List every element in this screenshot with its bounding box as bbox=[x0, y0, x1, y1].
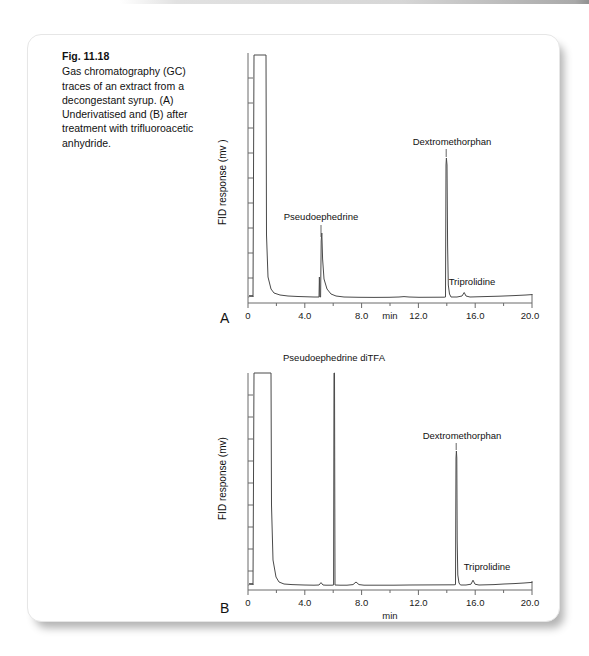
chart-a-axes bbox=[248, 53, 532, 308]
figure-page-card: Fig. 11.18Gas chromatography (GC) traces… bbox=[27, 34, 560, 622]
figure-number: Fig. 11.18 bbox=[62, 49, 214, 63]
chart-b-xtick-5: 20.0 bbox=[521, 597, 540, 608]
chart-b-y-axis-label: FID response (mv) bbox=[217, 437, 228, 520]
chart-b-x-tick-labels: 0 4.0 8.0 12.0 16.0 20.0 min bbox=[245, 597, 539, 621]
chart-b-annotations: Pseudoephedrine diTFA Dextromethorphan T… bbox=[283, 352, 510, 572]
chromatogram-panel-a: FID response (mv ) Pseudoephedrine bbox=[214, 45, 554, 337]
chart-b-annotation-pseudoephedrine-ditfa: Pseudoephedrine diTFA bbox=[283, 352, 386, 363]
panel-letter-b: B bbox=[220, 600, 229, 616]
figure-caption-text: Gas chromatography (GC) traces of an ext… bbox=[62, 65, 193, 148]
chart-b-xtick-3: 12.0 bbox=[409, 597, 428, 608]
chart-a-annotation-dextromethorphan: Dextromethorphan bbox=[413, 136, 492, 147]
chart-a-xtick-5: 20.0 bbox=[521, 310, 540, 321]
chart-a-x-tick-labels: 0 4.0 8.0 12.0 16.0 20.0 min bbox=[245, 310, 539, 321]
chart-b-xtick-0: 0 bbox=[245, 597, 250, 608]
chart-a-x-axis-label: min bbox=[382, 310, 397, 321]
chromatogram-panel-b: FID response (mv) Pseudoephedrine diTFA … bbox=[214, 345, 554, 621]
chart-a-xtick-3: 12.0 bbox=[409, 310, 428, 321]
chart-b-xtick-1: 4.0 bbox=[298, 597, 311, 608]
chart-a-annotations: Pseudoephedrine Dextromethorphan Triprol… bbox=[284, 136, 496, 287]
chart-a-trace bbox=[249, 55, 532, 297]
chart-b-xtick-2: 8.0 bbox=[355, 597, 368, 608]
chart-b-xtick-4: 16.0 bbox=[466, 597, 485, 608]
chart-b-svg: FID response (mv) Pseudoephedrine diTFA … bbox=[214, 345, 554, 621]
figure-caption: Fig. 11.18Gas chromatography (GC) traces… bbox=[62, 49, 214, 150]
chart-a-xtick-0: 0 bbox=[245, 310, 250, 321]
chart-a-xtick-4: 16.0 bbox=[466, 310, 485, 321]
chart-a-xtick-2: 8.0 bbox=[355, 310, 368, 321]
chart-a-xtick-1: 4.0 bbox=[298, 310, 311, 321]
chart-a-svg: FID response (mv ) Pseudoephedrine bbox=[214, 45, 554, 337]
chart-b-trace bbox=[249, 373, 532, 585]
chart-a-annotation-triprolidine: Triprolidine bbox=[449, 276, 496, 287]
chart-b-x-axis-label: min bbox=[382, 610, 397, 621]
panel-letter-a: A bbox=[220, 310, 230, 326]
chart-a-y-axis-label: FID response (mv ) bbox=[217, 139, 228, 225]
chart-b-annotation-dextromethorphan: Dextromethorphan bbox=[423, 430, 502, 441]
scan-top-edge-artifact bbox=[120, 0, 589, 4]
chart-a-annotation-pseudoephedrine: Pseudoephedrine bbox=[284, 211, 358, 222]
chart-b-annotation-triprolidine: Triprolidine bbox=[464, 561, 511, 572]
